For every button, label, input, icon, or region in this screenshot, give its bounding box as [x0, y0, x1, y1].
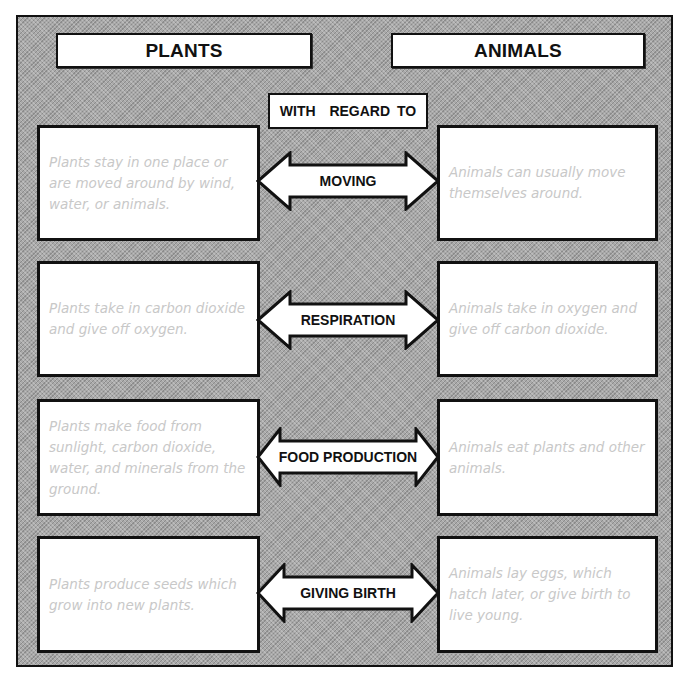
plants-moving-text: Plants stay in one place or are moved ar… — [49, 152, 249, 215]
giving-birth-label: GIVING BIRTH — [300, 585, 396, 601]
animals-moving-box: Animals can usually move themselves arou… — [437, 125, 658, 241]
with-regard-to-label: WITH REGARD TO — [268, 93, 428, 129]
respiration-double-arrow: RESPIRATION — [256, 290, 440, 350]
plants-giving-birth-box: Plants produce seeds which grow into new… — [37, 536, 260, 653]
plants-moving-box: Plants stay in one place or are moved ar… — [37, 125, 260, 241]
plants-header: PLANTS — [56, 33, 312, 68]
food-production-label: FOOD PRODUCTION — [279, 449, 417, 465]
moving-label: MOVING — [320, 173, 377, 189]
plants-food-production-text: Plants make food from sunlight, carbon d… — [49, 416, 249, 500]
with-regard-to-text: WITH REGARD TO — [280, 103, 416, 119]
food-production-double-arrow: FOOD PRODUCTION — [256, 427, 440, 487]
animals-food-production-box: Animals eat plants and other animals. — [437, 399, 658, 516]
animals-food-production-text: Animals eat plants and other animals. — [449, 437, 647, 479]
animals-respiration-box: Animals take in oxygen and give off carb… — [437, 261, 658, 377]
animals-giving-birth-text: Animals lay eggs, which hatch later, or … — [449, 563, 647, 626]
plants-respiration-box: Plants take in carbon dioxide and give o… — [37, 261, 260, 377]
plants-food-production-box: Plants make food from sunlight, carbon d… — [37, 399, 260, 516]
plants-giving-birth-text: Plants produce seeds which grow into new… — [49, 574, 249, 616]
plants-respiration-text: Plants take in carbon dioxide and give o… — [49, 298, 249, 340]
animals-giving-birth-box: Animals lay eggs, which hatch later, or … — [437, 536, 658, 653]
animals-respiration-text: Animals take in oxygen and give off carb… — [449, 298, 647, 340]
respiration-label: RESPIRATION — [301, 312, 396, 328]
animals-moving-text: Animals can usually move themselves arou… — [449, 162, 647, 204]
plants-header-label: PLANTS — [145, 40, 222, 62]
giving-birth-double-arrow: GIVING BIRTH — [256, 563, 440, 623]
animals-header-label: ANIMALS — [474, 40, 562, 62]
moving-double-arrow: MOVING — [256, 151, 440, 211]
animals-header: ANIMALS — [391, 33, 645, 68]
